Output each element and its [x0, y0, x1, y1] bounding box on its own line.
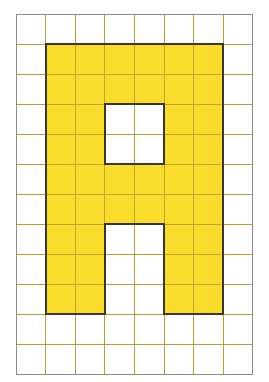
filled-cell — [134, 194, 164, 224]
filled-cell — [46, 254, 76, 284]
filled-cell — [194, 224, 224, 254]
filled-cell — [194, 134, 224, 164]
filled-cell — [46, 134, 76, 164]
figure-canvas — [0, 0, 269, 382]
filled-cell — [134, 74, 164, 104]
filled-cell — [46, 224, 76, 254]
filled-cell — [75, 104, 105, 134]
filled-cell — [194, 44, 224, 74]
grid-figure — [0, 0, 269, 382]
filled-cell — [164, 134, 194, 164]
filled-cell — [194, 164, 224, 194]
filled-cell — [164, 104, 194, 134]
filled-cell — [75, 74, 105, 104]
filled-cell — [164, 44, 194, 74]
filled-cell — [105, 74, 135, 104]
filled-cell — [194, 194, 224, 224]
filled-cell — [75, 254, 105, 284]
filled-cell — [46, 194, 76, 224]
filled-cell — [46, 284, 76, 314]
filled-cell — [46, 74, 76, 104]
filled-cell — [134, 44, 164, 74]
filled-cell — [46, 164, 76, 194]
filled-cell — [75, 224, 105, 254]
filled-cell — [134, 164, 164, 194]
filled-cell — [164, 284, 194, 314]
filled-cell — [75, 134, 105, 164]
filled-cell — [46, 44, 76, 74]
filled-cell — [164, 194, 194, 224]
filled-cell — [75, 164, 105, 194]
filled-cell — [75, 44, 105, 74]
filled-cell — [194, 74, 224, 104]
filled-cell — [105, 194, 135, 224]
filled-cell — [194, 254, 224, 284]
filled-cell — [105, 44, 135, 74]
filled-cell — [75, 194, 105, 224]
filled-cell — [164, 254, 194, 284]
filled-cell — [194, 284, 224, 314]
filled-cell — [75, 284, 105, 314]
filled-cell — [46, 104, 76, 134]
filled-cell — [164, 74, 194, 104]
filled-cell — [194, 104, 224, 134]
filled-cell — [105, 164, 135, 194]
filled-cell — [164, 164, 194, 194]
filled-cell — [164, 224, 194, 254]
